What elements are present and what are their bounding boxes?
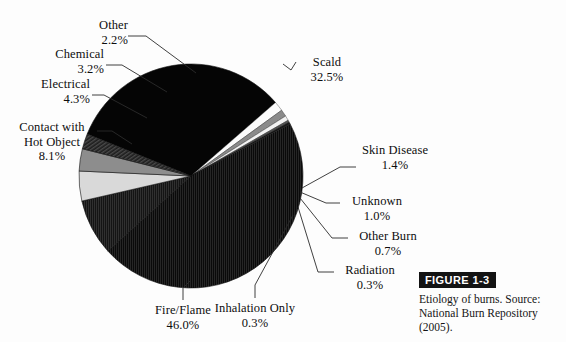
label-contact-name2: Hot Object: [8, 135, 96, 150]
label-unknown-pct: 1.0%: [342, 209, 412, 224]
leader-line-otherburn: [300, 198, 348, 238]
label-radiation-pct: 0.3%: [336, 278, 404, 293]
label-inhalation-name: Inhalation Only: [204, 301, 306, 316]
label-unknown: Unknown 1.0%: [342, 194, 412, 223]
label-otherburn-pct: 0.7%: [350, 244, 426, 259]
label-unknown-name: Unknown: [342, 194, 412, 209]
label-scald: Scald 32.5%: [296, 55, 358, 84]
label-electrical: Electrical 4.3%: [0, 77, 90, 106]
figure-caption: FIGURE 1-3 Etiology of burns. Source: Na…: [419, 270, 561, 334]
pie-slices: [79, 64, 303, 288]
label-inhalation-only: Inhalation Only 0.3%: [204, 301, 306, 330]
label-electrical-pct: 4.3%: [0, 92, 90, 107]
leader-line-unknown: [300, 192, 340, 203]
label-scald-pct: 32.5%: [296, 70, 358, 85]
label-contact-hot-object: Contact with Hot Object 8.1%: [8, 120, 96, 164]
figure-panel: Other 2.2% Chemical 3.2% Electrical 4.3%…: [0, 0, 566, 342]
label-radiation: Radiation 0.3%: [336, 263, 404, 292]
figure-tag: FIGURE 1-3: [419, 272, 496, 288]
label-inhalation-pct: 0.3%: [204, 316, 306, 331]
label-scald-name: Scald: [296, 55, 358, 70]
label-otherburn-name: Other Burn: [350, 229, 426, 244]
label-electrical-name: Electrical: [0, 77, 90, 92]
label-contact-pct: 8.1%: [8, 149, 96, 164]
label-radiation-name: Radiation: [336, 263, 404, 278]
label-other: Other 2.2%: [12, 18, 128, 47]
leader-line-skin: [302, 167, 356, 188]
label-chemical-pct: 3.2%: [0, 62, 104, 77]
label-skin-name: Skin Disease: [352, 143, 438, 158]
label-skin-disease: Skin Disease 1.4%: [352, 143, 438, 172]
leader-line-scald: [283, 62, 296, 70]
label-other-pct: 2.2%: [12, 33, 128, 48]
label-contact-name: Contact with: [8, 120, 96, 135]
figure-caption-text: Etiology of burns. Source: National Burn…: [419, 292, 561, 334]
label-other-burn: Other Burn 0.7%: [350, 229, 426, 258]
label-chemical-name: Chemical: [0, 47, 104, 62]
label-chemical: Chemical 3.2%: [0, 47, 104, 76]
leader-line-radiation: [298, 207, 334, 272]
label-skin-pct: 1.4%: [352, 158, 438, 173]
label-other-name: Other: [12, 18, 128, 33]
